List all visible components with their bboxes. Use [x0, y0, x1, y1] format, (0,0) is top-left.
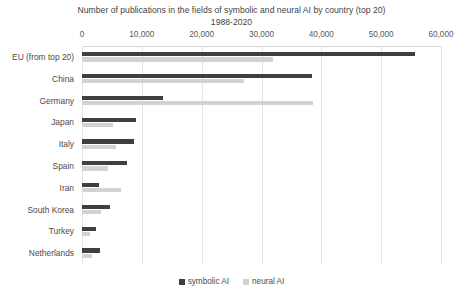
- bar-neural-ai: [82, 232, 90, 236]
- plot-area: [82, 46, 441, 264]
- legend-item-neural-ai[interactable]: neural AI: [243, 276, 284, 287]
- x-gridline: [381, 46, 382, 264]
- chart-legend: symbolic AIneural AI: [0, 276, 463, 287]
- legend-label: symbolic AI: [188, 276, 229, 287]
- x-axis-tick-labels: 010,00020,00030,00040,00050,00060,000: [0, 30, 463, 44]
- category-label: Iran: [60, 183, 74, 193]
- bar-symbolic-ai: [82, 52, 415, 56]
- category-label: Japan: [51, 117, 74, 127]
- bar-neural-ai: [82, 101, 313, 105]
- category-label: Turkey: [49, 226, 74, 236]
- bar-symbolic-ai: [82, 248, 100, 252]
- x-gridline: [321, 46, 322, 264]
- category-label: Italy: [59, 139, 74, 149]
- x-tick-label: 20,000: [189, 30, 214, 40]
- legend-item-symbolic-ai[interactable]: symbolic AI: [179, 276, 229, 287]
- legend-swatch-icon: [179, 279, 185, 285]
- x-tick-label: 40,000: [309, 30, 334, 40]
- x-tick-label: 0: [80, 30, 85, 40]
- bar-symbolic-ai: [82, 118, 136, 122]
- bar-symbolic-ai: [82, 161, 127, 165]
- x-tick-label: 60,000: [428, 30, 453, 40]
- x-gridline: [262, 46, 263, 264]
- x-tick-label: 30,000: [249, 30, 274, 40]
- bar-symbolic-ai: [82, 96, 163, 100]
- bar-symbolic-ai: [82, 205, 110, 209]
- x-gridline: [441, 46, 442, 264]
- bar-symbolic-ai: [82, 227, 96, 231]
- category-label: Germany: [40, 96, 74, 106]
- chart-subtitle: 1988-2020: [0, 16, 463, 28]
- category-label: Netherlands: [29, 248, 74, 258]
- bar-neural-ai: [82, 57, 273, 61]
- legend-swatch-icon: [243, 279, 249, 285]
- bar-neural-ai: [82, 166, 108, 170]
- category-label: EU (from top 20): [12, 52, 74, 62]
- bar-symbolic-ai: [82, 183, 99, 187]
- category-label: South Korea: [27, 205, 74, 215]
- bar-neural-ai: [82, 123, 113, 127]
- chart-container: Number of publications in the fields of …: [0, 0, 463, 299]
- bar-neural-ai: [82, 188, 121, 192]
- category-label: China: [52, 74, 74, 84]
- x-tick-label: 50,000: [369, 30, 394, 40]
- y-axis-category-labels: EU (from top 20)ChinaGermanyJapanItalySp…: [0, 46, 78, 264]
- chart-title-block: Number of publications in the fields of …: [0, 4, 463, 28]
- bar-symbolic-ai: [82, 139, 134, 143]
- category-label: Spain: [53, 161, 74, 171]
- bar-neural-ai: [82, 145, 116, 149]
- legend-label: neural AI: [252, 276, 284, 287]
- x-tick-label: 10,000: [129, 30, 154, 40]
- chart-title: Number of publications in the fields of …: [0, 4, 463, 16]
- bar-neural-ai: [82, 254, 92, 258]
- bar-neural-ai: [82, 210, 101, 214]
- bar-symbolic-ai: [82, 74, 312, 78]
- bar-neural-ai: [82, 79, 244, 83]
